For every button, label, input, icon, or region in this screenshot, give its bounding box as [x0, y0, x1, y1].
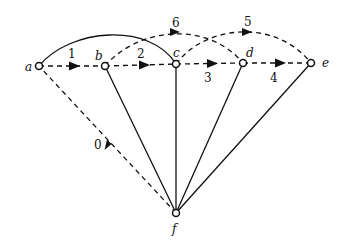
edge-label-1: 1	[68, 47, 76, 61]
arrow-edge-3	[207, 59, 218, 68]
arrow-edge-2	[139, 61, 150, 70]
node-a	[36, 63, 43, 70]
edge-f-a	[39, 66, 176, 213]
arrow-edge-4	[275, 59, 286, 68]
node-e	[308, 60, 315, 67]
node-label-b: b	[95, 49, 103, 63]
edge-a-c-solid-arc	[39, 35, 176, 66]
node-f	[173, 210, 180, 217]
node-c	[173, 61, 180, 68]
edge-label-2: 2	[137, 47, 145, 61]
arrow-edge-0	[105, 140, 112, 151]
edge-label-0: 0	[94, 138, 102, 152]
edge-f-d	[176, 63, 243, 213]
node-d	[240, 60, 247, 67]
edge-f-e	[176, 63, 311, 213]
arrow-edge-5	[242, 28, 252, 36]
edge-label-4: 4	[270, 71, 278, 85]
edge-label-6: 6	[172, 16, 180, 30]
edge-f-b	[105, 66, 176, 213]
edge-label-3: 3	[204, 71, 212, 85]
node-label-c: c	[173, 46, 180, 60]
arrow-edge-1	[69, 62, 80, 71]
node-label-e: e	[322, 56, 329, 70]
graph-diagram: a b c d e f 1 2 3 4 5 6 0	[0, 0, 342, 248]
node-label-d: d	[246, 46, 254, 60]
node-label-a: a	[25, 60, 32, 74]
node-label-f: f	[171, 222, 179, 236]
node-b	[102, 63, 109, 70]
edge-label-5: 5	[244, 15, 252, 29]
